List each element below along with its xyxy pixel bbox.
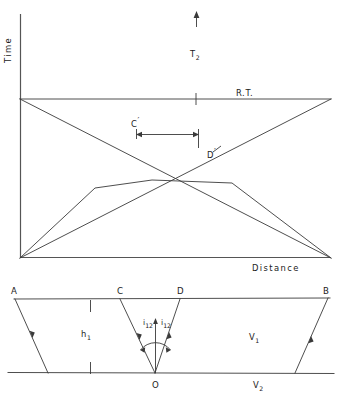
- refractor-interface-line: [8, 373, 334, 374]
- cd-separation-arrow-icon: [136, 132, 199, 137]
- ground-surface-line: [14, 298, 330, 299]
- ray-path-panel: A C D B O h1 V1 V2 i12 i12: [8, 286, 334, 392]
- figure-canvas: T2 R.T. C′ D′ Time Distance: [0, 0, 342, 399]
- t2-up-arrow-icon: [194, 11, 200, 27]
- angle-label-right-i12: i12: [161, 318, 171, 329]
- ray-from-a: [15, 299, 48, 373]
- critical-ray-c-o: [120, 299, 155, 373]
- label-point-a: A: [11, 286, 17, 296]
- angle-label-left-i12: i12: [143, 318, 153, 329]
- label-point-b: B: [323, 286, 329, 296]
- travel-time-panel: T2 R.T. C′ D′ Time Distance: [3, 11, 331, 273]
- normal-line-arrowhead: [153, 318, 158, 324]
- label-point-o: O: [152, 380, 159, 390]
- c-prime-label: C′: [131, 117, 140, 129]
- velocity-label-v1: V1: [249, 332, 260, 344]
- depth-label-h1: h1: [81, 329, 91, 341]
- t2-label: T2: [189, 49, 200, 61]
- critical-ray-o-d: [155, 299, 180, 373]
- label-point-c: C: [117, 286, 123, 296]
- distance-axis-title: Distance: [252, 263, 300, 273]
- refractor-profile-curve: [20, 180, 331, 258]
- ray-to-b: [295, 298, 328, 373]
- seismic-refraction-figure: T2 R.T. C′ D′ Time Distance: [0, 0, 342, 399]
- label-point-d: D: [177, 286, 184, 296]
- time-axis-title: Time: [3, 37, 13, 64]
- reciprocal-time-label: R.T.: [236, 88, 253, 98]
- ray-co-arrowhead: [136, 333, 141, 340]
- velocity-label-v2: V2: [253, 380, 264, 392]
- ray-b-arrowhead: [308, 336, 313, 343]
